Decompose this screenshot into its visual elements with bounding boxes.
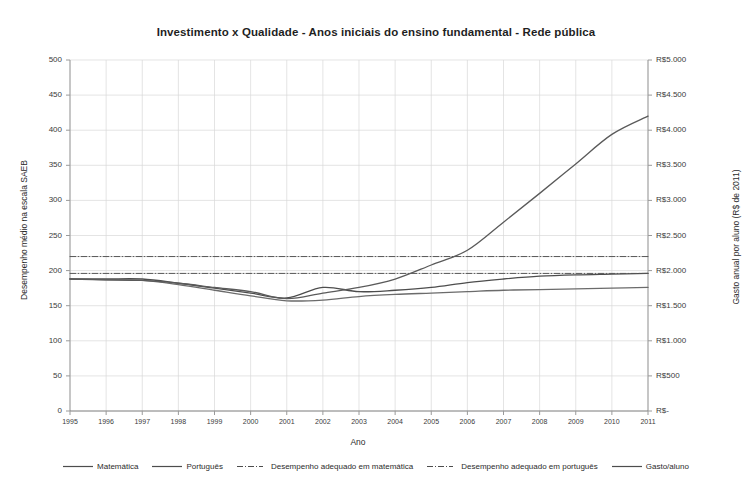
- legend-swatch-icon: [237, 463, 267, 470]
- legend-swatch-icon: [427, 463, 457, 470]
- legend-item-label: Português: [186, 462, 222, 471]
- legend-item-label: Desempenho adequado em matemática: [271, 462, 413, 471]
- chart-legend: MatemáticaPortuguêsDesempenho adequado e…: [0, 462, 752, 471]
- legend-item-label: Desempenho adequado em português: [461, 462, 598, 471]
- legend-item[interactable]: Desempenho adequado em português: [427, 462, 598, 471]
- legend-swatch-icon: [63, 463, 93, 470]
- legend-item[interactable]: Gasto/aluno: [612, 462, 689, 471]
- legend-item[interactable]: Matemática: [63, 462, 138, 471]
- legend-item-label: Matemática: [97, 462, 138, 471]
- legend-swatch-icon: [612, 463, 642, 470]
- legend-item-label: Gasto/aluno: [646, 462, 689, 471]
- plot-area: [0, 0, 752, 499]
- gridlines: [70, 60, 648, 411]
- legend-item[interactable]: Desempenho adequado em matemática: [237, 462, 413, 471]
- legend-swatch-icon: [152, 463, 182, 470]
- chart-figure: Investimento x Qualidade - Anos iniciais…: [0, 0, 752, 499]
- legend-item[interactable]: Português: [152, 462, 222, 471]
